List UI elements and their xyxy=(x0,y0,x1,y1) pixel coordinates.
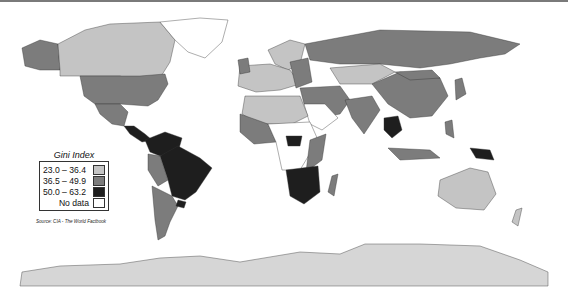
region-indonesia xyxy=(388,148,440,160)
region-new-zealand xyxy=(512,208,522,226)
region-canada xyxy=(58,22,175,82)
region-alaska xyxy=(22,40,60,70)
legend-swatch xyxy=(93,198,105,208)
legend-item: 23.0 – 36.4 xyxy=(43,164,105,175)
legend-label: 50.0 – 63.2 xyxy=(43,187,86,197)
region-brazil xyxy=(160,146,212,200)
legend-title: Gini Index xyxy=(39,150,109,160)
legend-swatch xyxy=(93,187,105,197)
legend-item: 50.0 – 63.2 xyxy=(43,186,105,197)
legend-label: 23.0 – 36.4 xyxy=(43,165,86,175)
region-indochina xyxy=(384,116,402,138)
legend-swatch xyxy=(93,176,105,186)
region-png xyxy=(470,148,494,160)
legend-swatch xyxy=(93,165,105,175)
region-usa xyxy=(80,74,168,106)
region-antarctica xyxy=(20,244,548,286)
region-philippines xyxy=(445,120,454,138)
legend-item: 36.5 – 49.9 xyxy=(43,175,105,186)
legend: Gini Index 23.0 – 36.4 36.5 – 49.9 50.0 … xyxy=(39,150,109,211)
legend-label: No data xyxy=(59,198,89,208)
region-car xyxy=(286,136,302,146)
region-uk xyxy=(238,58,250,74)
region-southern-africa xyxy=(286,166,320,204)
region-australia xyxy=(438,168,496,210)
region-mexico xyxy=(95,104,128,126)
region-madagascar xyxy=(328,174,338,196)
legend-item: No data xyxy=(43,197,105,208)
region-india xyxy=(345,96,380,134)
legend-label: 36.5 – 49.9 xyxy=(43,176,86,186)
region-japan xyxy=(455,78,466,100)
region-russia xyxy=(305,30,520,68)
source-caption: Source: CIA - The World Factbook xyxy=(36,219,106,224)
legend-box: 23.0 – 36.4 36.5 – 49.9 50.0 – 63.2 No d… xyxy=(39,161,109,211)
